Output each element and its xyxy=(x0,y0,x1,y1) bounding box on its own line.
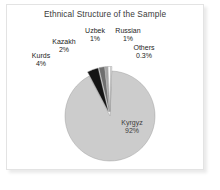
pie-label-kyrgyz-value: 92% xyxy=(116,127,148,135)
pie-label-russian: Russian 1% xyxy=(110,27,146,44)
chart-figure: Ethnical Structure of the Sample Kurds 4… xyxy=(0,0,220,190)
pie-label-russian-name: Russian xyxy=(115,27,140,34)
pie-label-russian-value: 1% xyxy=(110,35,146,43)
pie-label-others-value: 0.3% xyxy=(128,52,160,60)
pie-label-uzbek: Uzbek 1% xyxy=(80,27,110,44)
pie-label-others: Others 0.3% xyxy=(128,44,160,61)
pie-label-kyrgyz: Kyrgyz 92% xyxy=(116,119,148,136)
pie-label-kazakh-value: 2% xyxy=(47,46,81,54)
pie-label-uzbek-value: 1% xyxy=(80,35,110,43)
pie-label-uzbek-name: Uzbek xyxy=(85,27,105,34)
pie-label-kurds-value: 4% xyxy=(26,60,56,68)
pie-label-kazakh-name: Kazakh xyxy=(52,38,75,45)
pie-label-kyrgyz-name: Kyrgyz xyxy=(121,119,142,126)
pie-slice-group xyxy=(65,67,155,161)
pie-label-others-name: Others xyxy=(133,44,154,51)
pie-label-kazakh: Kazakh 2% xyxy=(47,38,81,55)
